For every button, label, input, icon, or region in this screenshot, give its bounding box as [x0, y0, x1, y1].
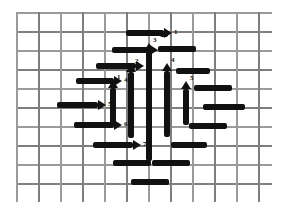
arrow-head-up-icon: [162, 63, 172, 71]
plain-bar-mark: [171, 142, 207, 148]
mesh-horizontal-line: [16, 88, 272, 90]
plain-bar-mark: [113, 160, 151, 166]
arrow-head-right-icon: [133, 140, 141, 150]
vertical-arrow-label: 1: [117, 74, 121, 81]
horizontal-arrow-shaft: [93, 142, 133, 148]
plain-bar-mark: [176, 68, 210, 74]
horizontal-arrow-label: 6: [124, 121, 128, 128]
mesh-vertical-line: [258, 12, 260, 202]
plain-bar-mark: [131, 179, 169, 185]
horizontal-arrow-shaft: [126, 30, 164, 36]
horizontal-arrow-shaft: [74, 122, 114, 128]
horizontal-arrow-shaft: [57, 102, 98, 108]
arrow-head-up-icon: [181, 81, 191, 89]
mesh-horizontal-line: [16, 126, 272, 128]
mesh-vertical-line: [38, 12, 40, 202]
mesh-arrow-figure: 13456712345: [0, 0, 282, 220]
plain-bar-mark: [189, 123, 227, 129]
plain-bar-mark: [158, 46, 196, 52]
vertical-arrow-label: 3: [153, 37, 157, 44]
mesh-horizontal-line: [16, 69, 272, 71]
vertical-arrow-shaft: [146, 51, 152, 161]
plain-bar-mark: [203, 104, 245, 110]
horizontal-arrow-label: 4: [124, 77, 128, 84]
mesh-vertical-line: [192, 12, 194, 202]
mesh-vertical-line: [16, 12, 18, 202]
vertical-arrow-label: 5: [190, 75, 194, 82]
vertical-arrow-shaft: [110, 88, 116, 124]
mesh-horizontal-line: [16, 12, 272, 14]
vertical-arrow-label: 4: [171, 57, 175, 64]
mesh-vertical-line: [170, 12, 172, 202]
arrow-head-right-icon: [98, 100, 106, 110]
horizontal-arrow-label: 1: [174, 29, 178, 36]
vertical-arrow-label: 2: [135, 58, 139, 65]
plain-bar-mark: [194, 85, 232, 91]
arrow-head-up-icon: [144, 43, 154, 51]
arrow-head-up-icon: [126, 64, 136, 72]
plain-bar-mark: [152, 160, 190, 166]
vertical-arrow-shaft: [183, 89, 189, 125]
arrow-head-up-icon: [108, 80, 118, 88]
vertical-arrow-shaft: [164, 71, 170, 137]
vertical-arrow-shaft: [128, 72, 134, 138]
plain-bar-mark: [160, 31, 168, 37]
